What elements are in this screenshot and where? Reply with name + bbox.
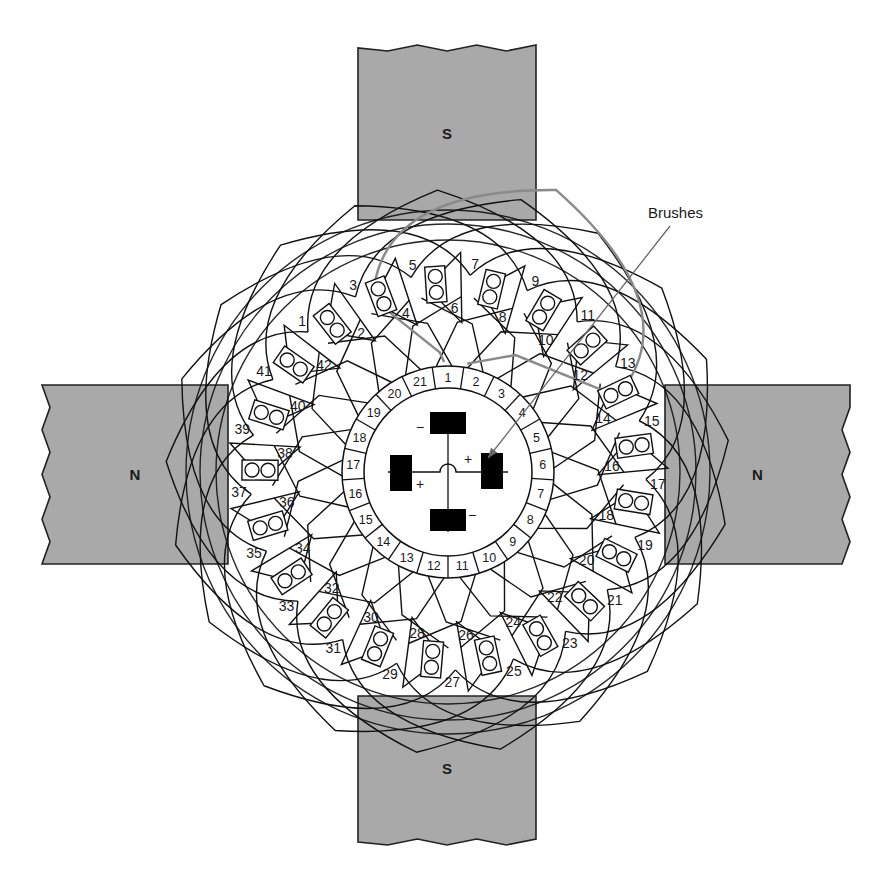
brush-right: [481, 453, 503, 489]
conductor-11: [586, 333, 600, 347]
slot-18: 3536: [246, 494, 294, 561]
conductor-15: [635, 438, 649, 452]
conductor-label-11: 11: [580, 307, 595, 323]
conductor-label-14: 14: [595, 410, 611, 426]
conductor-label-31: 31: [325, 640, 341, 656]
slot-box: [310, 598, 348, 639]
conductor-20: [602, 545, 616, 559]
commutator: 123456789101112131415161718192021: [342, 366, 554, 578]
conductor-label-9: 9: [531, 273, 539, 289]
conductor-22: [572, 589, 586, 603]
slot-15: 2930: [362, 609, 399, 682]
conductor-10: [533, 310, 547, 324]
conductor-3: [371, 282, 385, 296]
conductor-34: [291, 565, 305, 579]
conductor-label-16: 16: [604, 458, 620, 474]
conductor-7: [487, 274, 501, 288]
commutator-segment-7: 7: [537, 487, 544, 501]
commutator-segment-1: 1: [445, 371, 452, 385]
slot-3: 56: [409, 257, 459, 316]
conductor-label-5: 5: [409, 257, 417, 273]
conductor-38: [261, 463, 275, 477]
conductor-42: [293, 362, 307, 376]
conductor-label-20: 20: [579, 552, 595, 568]
commutator-segment-11: 11: [456, 559, 469, 573]
conductor-33: [278, 574, 292, 588]
conductor-26: [479, 641, 493, 655]
slot-box: [598, 375, 639, 408]
conductor-40: [270, 410, 284, 424]
slot-box: [523, 615, 558, 656]
conductor-13: [618, 382, 632, 396]
slot-12: 2324: [505, 614, 577, 656]
slot-11: 2122: [547, 582, 623, 621]
commutator-segment-9: 9: [509, 535, 516, 549]
conductor-36: [268, 516, 282, 530]
conductor-6: [429, 285, 443, 299]
conductor-label-34: 34: [295, 540, 311, 556]
commutator-segment-6: 6: [539, 458, 546, 472]
brush-bottom: [430, 509, 466, 531]
commutator-segment-18: 18: [353, 431, 367, 445]
brush-top: [430, 412, 466, 434]
conductor-9: [541, 296, 555, 310]
conductor-label-40: 40: [290, 398, 306, 414]
conductor-label-10: 10: [538, 332, 554, 348]
conductor-label-27: 27: [444, 674, 460, 690]
conductor-label-39: 39: [235, 421, 251, 437]
conductor-8: [483, 290, 497, 304]
conductor-label-22: 22: [547, 589, 563, 605]
conductor-label-21: 21: [607, 592, 623, 608]
conductor-label-19: 19: [637, 537, 653, 553]
commutator-segment-21: 21: [413, 375, 427, 389]
conductor-35: [253, 521, 267, 535]
conductor-30: [374, 632, 388, 646]
slot-21: 4142: [256, 346, 332, 383]
slot-9: 1718: [599, 476, 666, 523]
conductor-label-35: 35: [246, 545, 262, 561]
conductor-label-28: 28: [409, 625, 425, 641]
brush-bottom-polarity: −: [468, 507, 476, 523]
slot-box: [596, 538, 637, 572]
conductor-label-36: 36: [279, 494, 295, 510]
pole-left-label: N: [130, 466, 141, 483]
conductor-label-8: 8: [499, 309, 507, 325]
brush-top-polarity: −: [416, 419, 424, 435]
conductor-label-41: 41: [256, 363, 272, 379]
conductor-31: [317, 617, 331, 631]
slot-20: 3940: [235, 398, 306, 437]
conductor-18: [619, 494, 633, 508]
conductor-label-6: 6: [451, 300, 459, 316]
conductor-label-23: 23: [562, 635, 578, 651]
brush-left-polarity: +: [416, 476, 424, 492]
conductor-41: [280, 353, 294, 367]
conductor-24: [529, 622, 543, 636]
commutator-segment-17: 17: [346, 458, 360, 472]
conductor-label-2: 2: [357, 325, 365, 341]
conductor-19: [617, 552, 631, 566]
armature-winding-diagram: SSNN 12345678910111213141516171819202122…: [0, 0, 896, 876]
conductor-14: [604, 389, 618, 403]
conductor-label-25: 25: [506, 663, 522, 679]
pole-top-label: S: [442, 125, 452, 142]
conductor-label-18: 18: [599, 507, 615, 523]
commutator-segment-19: 19: [367, 406, 381, 420]
conductor-label-32: 32: [324, 580, 340, 596]
brush-right-polarity: +: [464, 451, 472, 467]
conductor-label-26: 26: [458, 627, 474, 643]
conductor-23: [537, 636, 551, 650]
slot-6: 1112: [567, 307, 607, 383]
slot-2: 34: [349, 276, 410, 322]
conductor-label-30: 30: [363, 609, 379, 625]
slot-box: [526, 290, 562, 331]
diagram-svg: SSNN 12345678910111213141516171819202122…: [0, 0, 896, 876]
conductor-label-4: 4: [402, 305, 410, 321]
conductor-2: [330, 323, 344, 337]
pole-right-label: N: [752, 466, 763, 483]
slot-box: [565, 582, 605, 621]
conductor-4: [377, 297, 391, 311]
commutator-segment-20: 20: [388, 387, 402, 401]
conductor-28: [426, 644, 440, 658]
conductor-label-29: 29: [382, 666, 398, 682]
conductor-25: [483, 657, 497, 671]
